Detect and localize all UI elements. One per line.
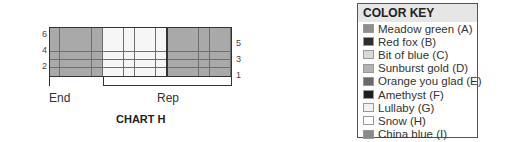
- color-swatch-icon: [363, 24, 374, 33]
- end-label: End: [49, 91, 70, 105]
- color-key-label: Meadow green (A): [378, 23, 473, 35]
- color-key-label: Red fox (B): [378, 36, 436, 48]
- color-key-item: Meadow green (A): [358, 22, 477, 35]
- color-key-item: Orange you glad (E): [358, 75, 477, 88]
- grid-cell: [60, 68, 71, 77]
- chart-title: CHART H: [116, 113, 166, 125]
- row-label-6: 6: [42, 29, 47, 39]
- color-swatch-icon: [363, 50, 374, 59]
- row-label-4: 4: [42, 45, 47, 55]
- color-key-label: Snow (H): [378, 115, 426, 127]
- color-key-title: COLOR KEY: [358, 4, 477, 22]
- grid-cell: [70, 68, 81, 77]
- color-key-item: Bit of blue (C): [358, 48, 477, 61]
- repeat-divider-line: [166, 27, 168, 77]
- color-swatch-icon: [363, 64, 374, 73]
- color-key-item: Red fox (B): [358, 35, 477, 48]
- color-swatch-icon: [363, 130, 374, 139]
- row-label-1: 1: [236, 70, 241, 80]
- color-key-label: China blue (I): [378, 128, 447, 140]
- color-key-label: Orange you glad (E): [378, 75, 482, 87]
- color-key-label: Bit of blue (C): [378, 49, 448, 61]
- end-bracket: [49, 76, 50, 86]
- color-key-item: China blue (I): [358, 128, 477, 141]
- color-key-label: Sunburst gold (D): [378, 62, 468, 74]
- color-key-label: Amethyst (F): [378, 89, 444, 101]
- color-swatch-icon: [363, 77, 374, 86]
- rep-bracket: [103, 76, 232, 86]
- color-swatch-icon: [363, 103, 374, 112]
- color-key: COLOR KEY Meadow green (A)Red fox (B)Bit…: [357, 3, 478, 138]
- grid-cell: [92, 68, 103, 77]
- grid-cell: [81, 68, 92, 77]
- color-key-item: Snow (H): [358, 114, 477, 127]
- color-key-item: Lullaby (G): [358, 101, 477, 114]
- color-key-item: Amethyst (F): [358, 88, 477, 101]
- color-swatch-icon: [363, 90, 374, 99]
- color-key-label: Lullaby (G): [378, 102, 434, 114]
- color-swatch-icon: [363, 116, 374, 125]
- grid-cell: [49, 68, 60, 77]
- chart-h: 6 4 2 5 3 1 End Rep CHART H: [0, 0, 300, 142]
- color-key-item: Sunburst gold (D): [358, 62, 477, 75]
- rep-label: Rep: [157, 91, 179, 105]
- color-key-list: Meadow green (A)Red fox (B)Bit of blue (…: [358, 22, 477, 141]
- row-label-3: 3: [236, 54, 241, 64]
- color-swatch-icon: [363, 37, 374, 46]
- row-label-2: 2: [42, 61, 47, 71]
- row-label-5: 5: [236, 38, 241, 48]
